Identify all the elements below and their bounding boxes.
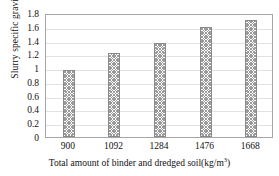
x-axis-tick-label: 1668: [227, 140, 273, 152]
bar: [154, 43, 166, 137]
x-axis-tick-label: 1284: [136, 140, 182, 152]
y-axis-tick-label: 1.6: [1, 23, 39, 33]
y-axis-tick-label: 1.4: [1, 37, 39, 47]
bar: [245, 20, 257, 137]
bar: [63, 70, 75, 137]
y-axis-tick-labels: 00.20.40.60.811.21.41.61.8: [0, 8, 42, 144]
y-axis-tick-label: 0.2: [1, 119, 39, 129]
y-axis-tick-label: 1.2: [1, 50, 39, 60]
y-axis-tick-label: 0.8: [1, 78, 39, 88]
x-axis-tick-labels: 9001092128414761668: [45, 140, 273, 154]
bar: [200, 27, 212, 137]
y-axis-tick-label: 1.8: [1, 9, 39, 19]
x-axis-title-text: Total amount of binder and dredged soil(…: [49, 158, 224, 168]
plot-area: [45, 14, 273, 138]
y-axis-tick-label: 1: [1, 64, 39, 74]
x-axis-title: Total amount of binder and dredged soil(…: [0, 157, 279, 169]
y-axis-tick-label: 0: [1, 133, 39, 143]
y-axis-tick-label: 0.4: [1, 105, 39, 115]
bar: [108, 53, 120, 137]
y-axis-tick-label: 0.6: [1, 92, 39, 102]
bar-chart-figure: Slurry specific gravity 00.20.40.60.811.…: [0, 0, 279, 176]
x-axis-title-tail: ): [227, 158, 230, 168]
x-axis-tick-label: 1092: [90, 140, 136, 152]
x-axis-tick-label: 1476: [182, 140, 228, 152]
x-axis-tick-label: 900: [45, 140, 91, 152]
bar-series: [46, 15, 272, 137]
